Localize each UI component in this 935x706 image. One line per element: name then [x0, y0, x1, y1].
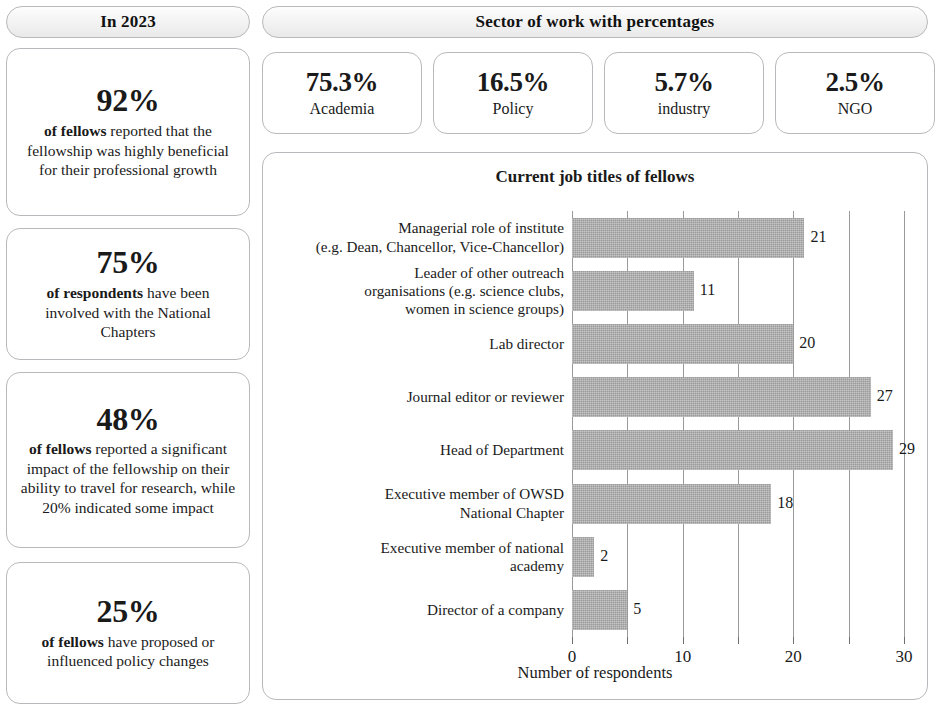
category-label: Director of a company [314, 601, 564, 619]
chart-card: Current job titles of fellows 21Manageri… [262, 152, 928, 700]
bar-value-label: 27 [877, 387, 893, 405]
category-label: Executive member of OWSDNational Chapter [314, 485, 564, 521]
axis-tick [627, 637, 628, 644]
category-label-line: National Chapter [314, 504, 564, 522]
stat-percent: 25% [96, 595, 159, 629]
bar-value-label: 11 [700, 281, 715, 299]
bar [572, 484, 771, 524]
bar [572, 430, 893, 470]
stat-percent: 92% [96, 84, 159, 118]
stat-lead: of respondents [47, 284, 144, 301]
axis-tick [683, 637, 684, 644]
category-label-line: Managerial role of institute [314, 219, 564, 237]
axis-tick [572, 637, 573, 644]
category-label-line: Executive member of national [314, 539, 564, 557]
gridline [793, 211, 794, 637]
bar-value-label: 29 [899, 440, 915, 458]
category-label: Journal editor or reviewer [314, 388, 564, 406]
category-label-line: organisations (e.g. science clubs, [314, 282, 564, 300]
sector-name: Academia [310, 100, 375, 118]
stat-card-48: 48% of fellows reported a significant im… [6, 372, 250, 548]
category-label: Leader of other outreachorganisations (e… [314, 264, 564, 319]
axis-tick [738, 637, 739, 644]
bar-value-label: 20 [799, 334, 815, 352]
category-label-line: Executive member of OWSD [314, 485, 564, 503]
in-2023-header: In 2023 [6, 6, 250, 38]
bar [572, 271, 694, 311]
sector-name: NGO [838, 100, 873, 118]
category-label-line: (e.g. Dean, Chancellor, Vice-Chancellor) [314, 238, 564, 256]
category-label: Managerial role of institute(e.g. Dean, … [314, 219, 564, 255]
category-label-line: Lab director [314, 335, 564, 353]
category-label-line: academy [314, 557, 564, 575]
stat-lead: of fellows [44, 122, 106, 139]
sector-card-industry: 5.7% industry [604, 52, 764, 134]
x-axis-title: Number of respondents [263, 663, 927, 683]
stat-card-25: 25% of fellows have proposed or influenc… [6, 562, 250, 704]
bar-chart-plot: 21Managerial role of institute(e.g. Dean… [263, 153, 929, 701]
left-stats-column: In 2023 92% of fellows reported that the… [0, 0, 256, 706]
axis-tick [904, 637, 905, 644]
sector-header-label: Sector of work with percentages [476, 12, 715, 32]
axis-tick [849, 637, 850, 644]
sector-percent: 5.7% [654, 68, 713, 98]
sector-name: Policy [493, 100, 534, 118]
sector-name: industry [658, 100, 710, 118]
bar-value-label: 2 [600, 547, 608, 565]
stat-lead: of fellows [41, 633, 103, 650]
sector-card-policy: 16.5% Policy [433, 52, 593, 134]
category-label-line: women in science groups) [314, 300, 564, 318]
category-label-line: Head of Department [314, 441, 564, 459]
gridline [849, 211, 850, 637]
sector-card-academia: 75.3% Academia [262, 52, 422, 134]
bar [572, 537, 594, 577]
stat-card-75: 75% of respondents have been involved wi… [6, 228, 250, 360]
category-label-line: Leader of other outreach [314, 264, 564, 282]
in-2023-header-label: In 2023 [100, 12, 156, 32]
gridline [904, 211, 905, 637]
bar-value-label: 5 [633, 600, 641, 618]
stat-percent: 75% [96, 246, 159, 280]
stat-description: of fellows reported a significant impact… [19, 439, 237, 517]
stat-lead: of fellows [29, 440, 91, 457]
bar [572, 324, 793, 364]
category-label: Head of Department [314, 441, 564, 459]
bar [572, 377, 871, 417]
sector-percent: 75.3% [306, 68, 378, 98]
bar-value-label: 21 [810, 228, 826, 246]
stat-percent: 48% [96, 403, 159, 437]
category-label-line: Director of a company [314, 601, 564, 619]
stat-description: of respondents have been involved with t… [19, 283, 237, 342]
sector-percent: 2.5% [825, 68, 884, 98]
stat-description: of fellows reported that the fellowship … [19, 121, 237, 180]
bar-value-label: 18 [777, 494, 793, 512]
gridline [738, 211, 739, 637]
category-label-line: Journal editor or reviewer [314, 388, 564, 406]
category-label: Lab director [314, 335, 564, 353]
stat-card-92: 92% of fellows reported that the fellows… [6, 48, 250, 216]
category-label: Executive member of nationalacademy [314, 539, 564, 575]
sector-card-ngo: 2.5% NGO [775, 52, 935, 134]
sector-header: Sector of work with percentages [262, 6, 928, 38]
stat-description: of fellows have proposed or influenced p… [19, 632, 237, 671]
axis-tick [793, 637, 794, 644]
sector-percent: 16.5% [477, 68, 549, 98]
bar [572, 218, 804, 258]
bar [572, 590, 627, 630]
